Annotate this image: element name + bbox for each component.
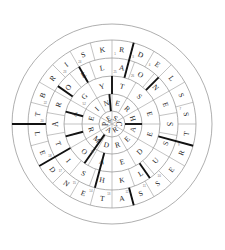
cell-letter[interactable]: T	[119, 81, 126, 91]
cell-letter[interactable]: E	[86, 115, 96, 122]
cell-letter[interactable]: L	[167, 74, 177, 83]
cell-divider	[89, 169, 95, 186]
cell-letter[interactable]: R	[114, 140, 121, 150]
cell-letter[interactable]: S	[80, 50, 87, 60]
cell-letter[interactable]: D	[47, 165, 58, 175]
cell-letter[interactable]: S	[137, 188, 144, 198]
cell-divider	[127, 82, 136, 98]
cell-divider	[70, 73, 82, 87]
cell-letter[interactable]: L	[99, 63, 105, 73]
cell-letter[interactable]: E	[145, 130, 155, 137]
cell-letter[interactable]: S	[161, 140, 171, 147]
cell-letter[interactable]: O	[79, 147, 90, 158]
cell-divider	[39, 82, 55, 91]
cell-number: 4	[149, 63, 151, 67]
cell-number: 14	[89, 189, 93, 193]
cell-letter[interactable]: R	[53, 101, 63, 109]
cell-letter[interactable]: E	[79, 188, 87, 198]
cell-letter[interactable]: H	[99, 175, 106, 185]
cell-number: 15	[73, 181, 77, 185]
cell-letter[interactable]: D	[103, 140, 111, 150]
cell-letter[interactable]: S	[176, 92, 186, 99]
cell-letter[interactable]: E	[114, 98, 121, 108]
cell-letter[interactable]: K	[118, 175, 125, 185]
cell-letter[interactable]: R	[122, 104, 132, 114]
cell-letter[interactable]: A	[69, 110, 79, 118]
cell-letter[interactable]: H	[128, 115, 138, 123]
cell-divider	[159, 113, 177, 116]
cell-divider	[127, 150, 136, 166]
cell-divider	[128, 169, 134, 186]
cell-divider	[169, 82, 185, 91]
cell-number: 20	[40, 119, 44, 123]
cell-number: 18	[48, 154, 52, 158]
cell-letter[interactable]: T	[53, 140, 63, 148]
cell-letter[interactable]: R	[176, 149, 186, 157]
cell-letter[interactable]: A	[51, 121, 60, 127]
cell-number: 52	[83, 102, 87, 106]
cell-letter[interactable]: T	[182, 130, 192, 136]
cell-letter[interactable]: A	[119, 193, 126, 203]
word-boundary-bar-15	[109, 94, 110, 111]
cell-letter[interactable]: L	[33, 131, 43, 137]
cell-number: 11	[143, 184, 146, 188]
cell-divider	[88, 82, 97, 98]
cell-divider	[176, 102, 193, 107]
cell-letter[interactable]: T	[99, 194, 105, 204]
cell-letter[interactable]: E	[161, 101, 171, 109]
cell-divider	[70, 139, 86, 148]
puzzle-container: SCRAPEERHAERDMREINTSEEDEAOIAGYAONESSULKH…	[0, 0, 225, 250]
cell-letter[interactable]: E	[79, 69, 88, 79]
cell-letter[interactable]: Y	[98, 81, 106, 91]
cell-number: 1	[114, 52, 116, 56]
cell-letter[interactable]: E	[119, 157, 126, 167]
cell-letter[interactable]: S	[79, 168, 87, 178]
circular-crossword-grid[interactable]: SCRAPEERHAERDMREINTSEEDEAOIAGYAONESSULKH…	[0, 0, 225, 250]
cell-number: 7	[180, 107, 182, 111]
cell-letter[interactable]: A	[128, 125, 138, 133]
cell-divider	[159, 132, 177, 135]
cell-letter[interactable]: E	[38, 149, 48, 157]
cell-letter[interactable]: I	[63, 60, 71, 69]
cell-letter[interactable]: D	[135, 146, 146, 157]
cell-letter[interactable]: E	[145, 111, 155, 118]
cell-divider	[169, 157, 185, 166]
cell-letter[interactable]: S	[182, 112, 191, 117]
cell-letter[interactable]: S	[153, 179, 162, 189]
cell-letter[interactable]: S	[165, 122, 174, 126]
cell-letter[interactable]: E	[153, 60, 162, 70]
cell-letter[interactable]: I	[64, 157, 73, 165]
cell-letter[interactable]: O	[136, 69, 146, 80]
cell-letter[interactable]: E	[122, 134, 132, 144]
cell-letter[interactable]: S	[135, 92, 144, 101]
cell-letter[interactable]: N	[61, 178, 71, 189]
cell-number: 9	[178, 143, 180, 147]
cell-divider	[47, 132, 65, 135]
cell-number: 26	[131, 74, 135, 78]
cell-divider	[89, 62, 95, 79]
cell-divider	[90, 43, 95, 60]
cell-letter[interactable]: I	[93, 104, 101, 112]
cell-letter[interactable]: R	[86, 126, 96, 133]
cell-letter[interactable]: R	[47, 74, 57, 83]
cell-letter[interactable]: U	[150, 155, 161, 165]
cell-letter[interactable]: B	[38, 91, 48, 99]
cell-number: 13	[107, 192, 111, 196]
cell-letter[interactable]: A	[118, 63, 125, 73]
cell-letter[interactable]: G	[79, 91, 90, 102]
cell-number: 25	[113, 70, 117, 74]
cell-letter[interactable]: R	[119, 45, 125, 55]
cell-letter[interactable]: D	[137, 50, 146, 61]
cell-number: 68	[108, 120, 112, 124]
cell-divider	[31, 141, 48, 146]
cell-number: 10	[158, 174, 162, 178]
cell-letter[interactable]: I	[70, 132, 79, 137]
cell-divider	[70, 161, 82, 175]
word-boundary-bar-6	[129, 188, 134, 205]
cell-letter[interactable]: A	[98, 157, 106, 167]
cell-letter[interactable]: T	[33, 111, 43, 117]
cell-number: 17	[59, 169, 63, 173]
cell-letter[interactable]: K	[99, 45, 106, 55]
word-boundary-bar-0	[124, 43, 133, 78]
cell-letter[interactable]: E	[167, 165, 177, 174]
